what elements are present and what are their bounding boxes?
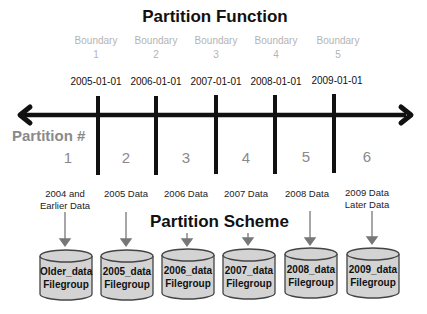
partition-scheme-title: Partition Scheme [150,212,284,232]
boundary-label-4: Boundary4 [246,34,306,62]
partition-number-3: 3 [176,149,196,166]
filegroup-2006-data: 2006_dataFilegroup [162,249,214,299]
partition-number-1: 1 [58,149,78,166]
filegroup-2007-data: 2007_dataFilegroup [223,249,275,299]
partition-data-6: 2009 DataLater Data [335,187,399,211]
boundary-label-5: Boundary5 [308,34,368,62]
filegroup-older-data: Older_dataFilegroup [40,250,92,300]
partition-number-4: 4 [236,149,256,166]
boundary-date-3: 2007-01-01 [186,76,246,87]
partition-data-3: 2006 Data [154,188,218,200]
partition-data-4: 2007 Data [214,188,278,200]
boundary-date-2: 2006-01-01 [126,76,186,87]
boundary-date-4: 2008-01-01 [246,76,306,87]
boundary-date-5: 2009-01-01 [307,75,367,86]
partition-number-label: Partition # [12,127,85,144]
boundary-label-1: Boundary1 [66,34,126,62]
cylinders [40,248,399,300]
partition-number-6: 6 [357,148,377,165]
boundary-date-1: 2005-01-01 [66,76,126,87]
partition-number-5: 5 [296,148,316,165]
partition-function-title: Partition Function [0,7,427,27]
boundary-label-3: Boundary3 [186,34,246,62]
partition-data-1: 2004 andEarlier Data [33,188,97,212]
partition-number-2: 2 [116,149,136,166]
filegroup-2009-data: 2009_dataFilegroup [347,248,399,298]
boundary-label-2: Boundary2 [126,34,186,62]
filegroup-2005-data: 2005_dataFilegroup [101,250,153,300]
partition-data-2: 2005 Data [94,188,158,200]
partition-data-5: 2008 Data [275,188,339,200]
filegroup-2008-data: 2008_dataFilegroup [285,248,337,298]
